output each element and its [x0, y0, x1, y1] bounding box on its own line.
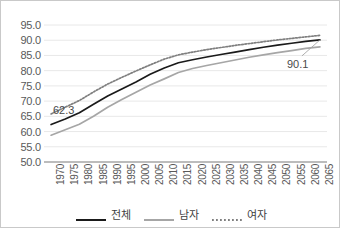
y-tick-label: 50.0 [3, 157, 41, 168]
x-tick-label: 2000 [140, 164, 151, 202]
x-tick-label: 2055 [296, 164, 307, 202]
plot-area [44, 25, 327, 162]
y-tick-label: 85.0 [3, 50, 41, 61]
x-tick-label: 2015 [182, 164, 193, 202]
legend-item[interactable]: 남자 [144, 210, 199, 221]
plot-svg [44, 25, 327, 162]
y-tick-label: 65.0 [3, 111, 41, 122]
x-tick-label: 1980 [83, 164, 94, 202]
x-tick-label: 2045 [267, 164, 278, 202]
legend-item[interactable]: 여자 [212, 210, 267, 221]
x-tick-label: 2010 [168, 164, 179, 202]
legend-line-icon [144, 211, 174, 221]
legend-line-icon [76, 211, 106, 221]
chart-legend: 전체남자여자 [1, 210, 341, 221]
x-tick-label: 1985 [98, 164, 109, 202]
x-tick-label: 2030 [225, 164, 236, 202]
gridlines [44, 25, 327, 162]
x-tick-label: 2050 [281, 164, 292, 202]
x-tick-label: 2040 [253, 164, 264, 202]
x-axis: 1970197519801985199019952000200520102015… [44, 164, 327, 204]
series-lines [51, 35, 320, 135]
x-tick-label: 1975 [69, 164, 80, 202]
y-tick-label: 75.0 [3, 81, 41, 92]
legend-label: 남자 [179, 210, 199, 221]
series-line [51, 35, 320, 114]
y-tick-label: 80.0 [3, 66, 41, 77]
y-axis: 95.090.085.080.075.070.065.060.055.050.0 [1, 25, 41, 162]
legend-line-icon [212, 211, 242, 221]
x-tick-label: 1995 [126, 164, 137, 202]
legend-label: 전체 [111, 210, 131, 221]
y-tick-label: 70.0 [3, 96, 41, 107]
series-line [51, 47, 320, 135]
x-tick-label: 1970 [55, 164, 66, 202]
chart-figure: 95.090.085.080.075.070.065.060.055.050.0… [0, 0, 340, 228]
x-tick-label: 2065 [324, 164, 335, 202]
legend-label: 여자 [247, 210, 267, 221]
y-tick-label: 90.0 [3, 35, 41, 46]
x-tick-label: 1990 [112, 164, 123, 202]
y-tick-label: 60.0 [3, 127, 41, 138]
x-tick-label: 2020 [197, 164, 208, 202]
x-tick-label: 2025 [211, 164, 222, 202]
x-tick-label: 2060 [310, 164, 321, 202]
y-tick-label: 55.0 [3, 142, 41, 153]
legend-item[interactable]: 전체 [76, 210, 131, 221]
y-tick-label: 95.0 [3, 20, 41, 31]
x-tick-label: 2035 [239, 164, 250, 202]
start-value-label: 62.3 [53, 104, 74, 116]
x-tick-label: 2005 [154, 164, 165, 202]
end-value-label: 90.1 [287, 58, 308, 70]
